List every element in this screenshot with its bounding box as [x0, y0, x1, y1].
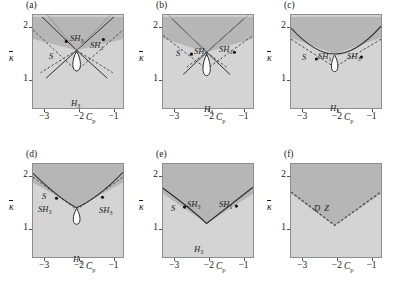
plot-area — [162, 163, 254, 258]
panel-f: (f)κCp21−3−2−1D Z — [258, 149, 391, 298]
x-tick-mark — [114, 258, 115, 261]
y-axis-title-text: κ — [139, 201, 144, 212]
panel-d: (d)κCp21−3−2−1SSH3SH3H3 — [0, 149, 133, 298]
y-axis-title-text: κ — [9, 52, 14, 63]
hopf-loop-region — [73, 51, 81, 71]
x-tick-label: −1 — [105, 111, 123, 121]
x-tick-label: −2 — [70, 111, 88, 121]
panel-label: (a) — [26, 0, 37, 10]
solid-boundary-line — [77, 50, 108, 78]
curve-label: S — [42, 192, 46, 201]
panel-label: (d) — [26, 149, 37, 159]
curve-label: SH1 — [318, 52, 331, 61]
curve-label: SH1 — [219, 45, 232, 54]
panel-label: (b) — [156, 0, 167, 10]
curve-label: SH3 — [70, 34, 83, 43]
x-tick-mark — [209, 258, 210, 261]
curve-label: H3 — [73, 255, 82, 264]
curve-label-subscript: 3 — [77, 103, 80, 109]
curve-label: S — [49, 52, 53, 61]
curve-label-text: S — [176, 48, 180, 58]
curve-label-subscript: 1 — [229, 204, 232, 210]
x-tick-label: −3 — [35, 111, 53, 121]
curve-label-subscript: 3 — [200, 249, 203, 255]
curve-label: S — [302, 53, 306, 62]
x-tick-label: −1 — [235, 260, 253, 270]
y-axis-title-text: κ — [267, 52, 272, 63]
curve-label-text: SH — [90, 40, 100, 50]
x-axis-title-subscript: p — [92, 117, 95, 124]
curve-label-subscript: 3 — [80, 38, 83, 44]
curve-label-text: S — [42, 191, 46, 201]
dashed-boundary-line — [77, 50, 113, 72]
curve-label-text: SH — [219, 199, 229, 209]
x-tick-mark — [337, 258, 338, 261]
panel-a: (a)κCp21−3−2−1SSH3SH1H3 — [0, 0, 133, 149]
y-tick-label: 1 — [14, 73, 28, 83]
x-axis-title-subscript: p — [222, 266, 225, 273]
x-tick-mark — [79, 109, 80, 112]
curve-label: S — [171, 204, 175, 213]
panel-label: (e) — [156, 149, 167, 159]
y-tick-label: 1 — [272, 73, 286, 83]
hopf-loop-region — [203, 54, 210, 76]
codim-two-point-marker — [65, 40, 68, 43]
curve-label-text: SH — [38, 204, 48, 214]
y-tick-label: 2 — [14, 20, 28, 30]
curve-label: SH3 — [194, 47, 207, 56]
x-tick-mark — [174, 109, 175, 112]
curve-label-subscript: 3 — [204, 51, 207, 57]
y-tick-label: 1 — [14, 222, 28, 232]
x-axis-title-subscript: p — [92, 266, 95, 273]
codim-two-point-marker — [101, 196, 104, 199]
y-axis-title-text: κ — [267, 201, 272, 212]
curve-label-text: SH — [318, 51, 328, 61]
x-tick-label: −3 — [165, 111, 183, 121]
curve-label-text: SH — [70, 33, 80, 43]
curve-label: H3 — [71, 99, 80, 108]
inner-region — [291, 17, 381, 54]
curve-label: H3 — [330, 104, 339, 113]
curve-label: SH3 — [347, 52, 360, 61]
degenerate-zero-label: D Z — [314, 203, 330, 213]
curve-label-subscript: 3 — [210, 109, 213, 115]
x-tick-label: −3 — [35, 260, 53, 270]
plot-area — [290, 163, 382, 258]
curve-label: SH1 — [219, 200, 232, 209]
x-axis-title-subscript: p — [350, 117, 353, 124]
curve-label-subscript: 3 — [336, 108, 339, 114]
panel-label: (f) — [284, 149, 294, 159]
x-tick-label: −1 — [363, 260, 381, 270]
curve-label-subscript: 1 — [100, 45, 103, 51]
hopf-loop-region — [331, 55, 337, 72]
y-tick-label: 1 — [272, 222, 286, 232]
x-tick-mark — [44, 258, 45, 261]
y-axis-title: κ — [139, 52, 144, 63]
codim-two-point-marker — [183, 206, 186, 209]
curve-label: SH3 — [187, 200, 200, 209]
plot-area — [32, 14, 124, 109]
panel-b: (b)κCp21−3−2−1SSH3SH1H3 — [130, 0, 263, 149]
x-tick-mark — [174, 258, 175, 261]
panel-e: (e)κCp21−3−2−1SSH3SH1H3 — [130, 149, 263, 298]
codim-two-point-marker — [190, 53, 193, 56]
y-axis-title-text: κ — [9, 201, 14, 212]
x-tick-mark — [114, 109, 115, 112]
y-tick-label: 1 — [144, 222, 158, 232]
x-tick-mark — [244, 109, 245, 112]
curve-label-text: SH — [219, 44, 229, 54]
curve-label-subscript: 3 — [109, 210, 112, 216]
curve-label-text: SH — [347, 51, 357, 61]
hopf-loop-region — [73, 209, 80, 225]
codim-two-point-marker — [55, 197, 58, 200]
x-tick-mark — [244, 258, 245, 261]
y-axis-title: κ — [139, 201, 144, 212]
x-tick-label: −3 — [293, 111, 311, 121]
y-axis-title: κ — [267, 52, 272, 63]
curve-label-subscript: 3 — [357, 56, 360, 62]
y-tick-label: 2 — [272, 169, 286, 179]
y-tick-label: 2 — [14, 169, 28, 179]
x-tick-mark — [302, 109, 303, 112]
curve-label-subscript: 1 — [229, 49, 232, 55]
curve-label-text: SH — [99, 205, 109, 215]
